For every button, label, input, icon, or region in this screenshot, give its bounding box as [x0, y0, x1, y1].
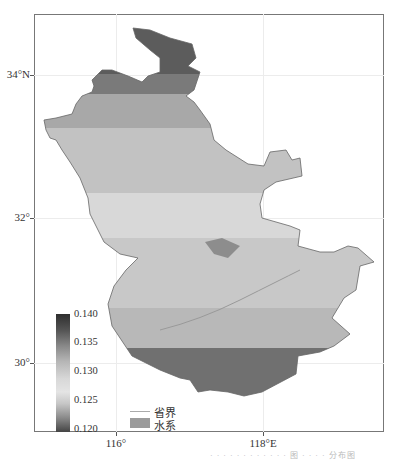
- legend-water-swatch: [130, 418, 150, 428]
- tick-lon-116: [116, 432, 117, 436]
- colorbar-tick-0120: 0.120: [74, 423, 98, 434]
- tick-lat-34: [30, 75, 34, 76]
- colorbar-tick-0140: 0.140: [74, 308, 98, 319]
- figure-caption: · · · · · · · · · · · · 图 · · · · 分布图: [210, 449, 356, 460]
- lon-label-116: 116°: [106, 437, 127, 449]
- colorbar-tick-0125: 0.125: [74, 394, 98, 405]
- tick-lat-30: [30, 363, 34, 364]
- tick-lon-118: [263, 432, 264, 436]
- colorbar-tick-0135: 0.135: [74, 336, 98, 347]
- colorbar: [56, 314, 70, 432]
- legend-water-label: 水系: [154, 417, 176, 433]
- lat-label-30: 30°: [15, 356, 30, 368]
- lat-label-34: 34°N: [7, 68, 30, 80]
- lon-label-118: 118°E: [249, 437, 276, 449]
- lat-label-32: 32°: [15, 211, 30, 223]
- colorbar-tick-0130: 0.130: [74, 365, 98, 376]
- legend-boundary-swatch: [130, 411, 150, 412]
- tick-lat-32: [30, 218, 34, 219]
